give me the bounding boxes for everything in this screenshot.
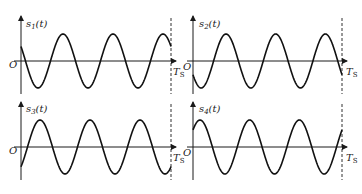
panel-s4: s4(t) O TS bbox=[183, 102, 358, 180]
origin-label: O bbox=[9, 59, 17, 70]
origin-label: O bbox=[183, 147, 191, 158]
signal-label-s3: s3(t) bbox=[26, 103, 48, 116]
origin-label: O bbox=[183, 61, 191, 72]
panel-s2: s2(t) O TS bbox=[183, 16, 358, 94]
panel-s1: s1(t) O TS bbox=[9, 16, 185, 94]
ts-label: TS bbox=[346, 66, 358, 79]
signal-label-s1: s1(t) bbox=[26, 18, 48, 31]
ts-label: TS bbox=[346, 152, 358, 165]
signal-label-s4: s4(t) bbox=[199, 103, 221, 116]
panel-s3: s3(t) O TS bbox=[9, 102, 185, 180]
four-psk-waveforms-figure: s1(t) O TS s2(t) O TS s3(t) O TS s4(t) O… bbox=[0, 0, 362, 194]
signal-label-s2: s2(t) bbox=[199, 18, 221, 31]
origin-label: O bbox=[9, 145, 17, 156]
